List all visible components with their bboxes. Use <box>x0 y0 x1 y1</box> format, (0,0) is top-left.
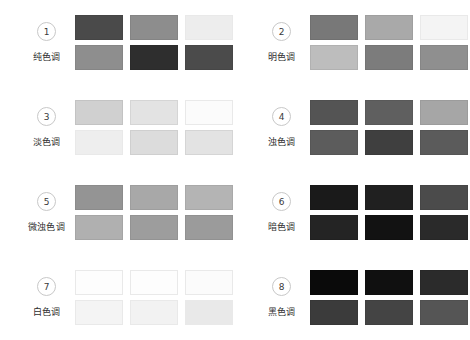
color-swatch <box>75 130 123 155</box>
color-swatch <box>130 100 178 125</box>
color-swatch <box>185 100 233 125</box>
tone-group: 1纯色调 <box>0 0 235 85</box>
color-swatch <box>75 100 123 125</box>
color-swatch <box>365 185 413 210</box>
color-swatch <box>185 15 233 40</box>
color-swatch <box>310 100 358 125</box>
color-swatch <box>185 300 233 325</box>
color-swatch <box>75 15 123 40</box>
group-number-badge: 1 <box>37 22 56 41</box>
color-swatch <box>365 270 413 295</box>
color-swatch <box>365 215 413 240</box>
color-swatch <box>420 130 468 155</box>
tone-group: 8黑色调 <box>235 255 470 340</box>
color-swatch <box>185 130 233 155</box>
group-label: 暗色调 <box>268 220 296 233</box>
color-swatch <box>365 130 413 155</box>
color-swatch <box>185 270 233 295</box>
color-swatch <box>420 270 468 295</box>
color-swatch <box>365 15 413 40</box>
swatch-block <box>75 15 233 70</box>
tone-group-meta: 7白色调 <box>18 277 75 318</box>
swatch-block <box>75 270 233 325</box>
group-number-badge: 7 <box>37 277 56 296</box>
color-swatch <box>310 45 358 70</box>
tone-group: 7白色调 <box>0 255 235 340</box>
color-swatch <box>130 45 178 70</box>
color-swatch <box>420 215 468 240</box>
group-label: 黑色调 <box>268 305 296 318</box>
tone-group-meta: 4浊色调 <box>253 107 310 148</box>
tone-group: 6暗色调 <box>235 170 470 255</box>
color-swatch <box>420 15 468 40</box>
tone-group-meta: 2明色调 <box>253 22 310 63</box>
color-swatch <box>310 15 358 40</box>
tone-palette-grid: 1纯色调2明色调3淡色调4浊色调5微浊色调6暗色调7白色调8黑色调 <box>0 0 470 340</box>
group-label: 微浊色调 <box>28 220 65 233</box>
color-swatch <box>310 270 358 295</box>
tone-group: 5微浊色调 <box>0 170 235 255</box>
color-swatch <box>75 215 123 240</box>
group-number-badge: 5 <box>37 192 56 211</box>
color-swatch <box>365 300 413 325</box>
color-swatch <box>75 185 123 210</box>
color-swatch <box>310 300 358 325</box>
tone-group-meta: 3淡色调 <box>18 107 75 148</box>
tone-group: 2明色调 <box>235 0 470 85</box>
color-swatch <box>185 215 233 240</box>
tone-group-meta: 8黑色调 <box>253 277 310 318</box>
group-label: 淡色调 <box>33 135 61 148</box>
group-number-badge: 6 <box>272 192 291 211</box>
swatch-block <box>310 15 468 70</box>
tone-group-meta: 6暗色调 <box>253 192 310 233</box>
group-number-badge: 8 <box>272 277 291 296</box>
color-swatch <box>420 185 468 210</box>
color-swatch <box>310 215 358 240</box>
swatch-block <box>310 100 468 155</box>
color-swatch <box>130 300 178 325</box>
tone-group: 4浊色调 <box>235 85 470 170</box>
group-number-badge: 2 <box>272 22 291 41</box>
color-swatch <box>310 185 358 210</box>
tone-group-meta: 1纯色调 <box>18 22 75 63</box>
swatch-block <box>310 185 468 240</box>
group-number-badge: 3 <box>37 107 56 126</box>
color-swatch <box>365 100 413 125</box>
group-label: 纯色调 <box>33 50 61 63</box>
group-label: 明色调 <box>268 50 296 63</box>
tone-group: 3淡色调 <box>0 85 235 170</box>
group-label: 浊色调 <box>268 135 296 148</box>
tone-group-meta: 5微浊色调 <box>18 192 75 233</box>
color-swatch <box>130 130 178 155</box>
swatch-block <box>310 270 468 325</box>
color-swatch <box>420 45 468 70</box>
color-swatch <box>75 45 123 70</box>
color-swatch <box>185 45 233 70</box>
group-number-badge: 4 <box>272 107 291 126</box>
swatch-block <box>75 185 233 240</box>
color-swatch <box>130 185 178 210</box>
group-label: 白色调 <box>33 305 61 318</box>
color-swatch <box>185 185 233 210</box>
color-swatch <box>420 300 468 325</box>
color-swatch <box>130 15 178 40</box>
color-swatch <box>365 45 413 70</box>
swatch-block <box>75 100 233 155</box>
color-swatch <box>75 270 123 295</box>
color-swatch <box>310 130 358 155</box>
color-swatch <box>130 215 178 240</box>
color-swatch <box>75 300 123 325</box>
color-swatch <box>130 270 178 295</box>
color-swatch <box>420 100 468 125</box>
